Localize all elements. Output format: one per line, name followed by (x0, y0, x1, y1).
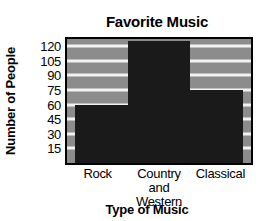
y-tick-label: 30 (47, 127, 61, 140)
bar-slot (190, 39, 243, 163)
bar-chart-figure: Favorite Music Number of People 12010590… (0, 0, 266, 221)
bar-series (67, 39, 251, 163)
y-tick-label: 90 (47, 69, 61, 82)
y-tick-label: 15 (47, 142, 61, 155)
bar-slot (75, 39, 128, 163)
y-tick-label: 105 (40, 54, 61, 67)
y-axis-tick-labels: 120105907560453015 (20, 37, 64, 165)
y-tick-label: 45 (47, 113, 61, 126)
plot-area (65, 37, 253, 165)
y-tick-label: 120 (40, 40, 61, 53)
x-tick-label: Classical (192, 167, 249, 181)
y-tick-label: 60 (47, 98, 61, 111)
y-axis-label: Number of People (3, 47, 18, 155)
bar (190, 90, 243, 163)
x-axis-label: Type of Music (40, 202, 254, 217)
bar (128, 41, 190, 163)
bar-slot (128, 39, 190, 163)
x-axis-tick-labels: RockCountry and WesternClassical (65, 167, 253, 201)
y-axis-label-container: Number of People (0, 37, 20, 165)
x-tick-label: Rock (69, 167, 126, 181)
chart-title: Favorite Music (60, 13, 254, 30)
y-tick-label: 75 (47, 84, 61, 97)
bar (75, 105, 128, 163)
